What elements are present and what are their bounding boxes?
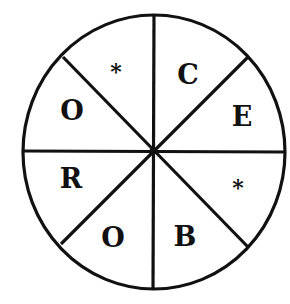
letter-wheel: * C E * B O R O bbox=[0, 0, 290, 304]
sector-label-right-upper: E bbox=[232, 101, 253, 132]
sector-label-bottom-left: O bbox=[101, 222, 125, 253]
sector-label-right-lower: * bbox=[232, 174, 244, 200]
sector-label-top-left: * bbox=[110, 58, 122, 84]
sector-label-top-right: C bbox=[177, 59, 199, 90]
sector-label-bottom-right: B bbox=[174, 221, 197, 252]
sector-label-left-lower: R bbox=[60, 163, 83, 194]
wheel-center-hub bbox=[150, 148, 157, 155]
sector-label-left-upper: O bbox=[60, 95, 84, 126]
